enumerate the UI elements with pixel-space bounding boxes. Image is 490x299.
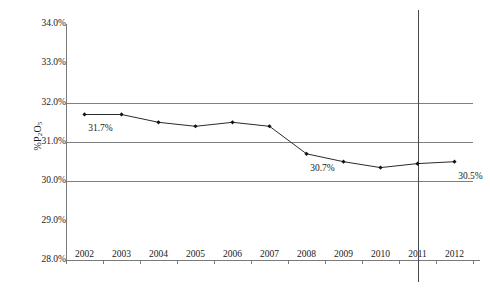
x-tickmark [66,260,67,264]
y-tick-label: 29.0% [22,216,66,226]
x-tick-label: 2012 [445,249,464,259]
x-tick-label: 2002 [75,249,94,259]
x-tickmark [325,260,326,264]
x-tick-label: 2008 [297,249,316,259]
y-tick-label: 33.0% [22,58,66,68]
data-label: 31.7% [88,123,113,133]
x-tickmark [436,260,437,264]
y-tick-label: 34.0% [22,19,66,29]
y-tick-label: 31.0% [22,137,66,147]
data-point-marker [193,124,197,128]
data-label: 30.5% [458,171,483,181]
x-tickmark [473,260,474,264]
x-tickmark [214,260,215,264]
x-tickmark [362,260,363,264]
data-point-marker [341,160,345,164]
y-tick-label: 30.0% [22,176,66,186]
chart-container: %P2O5 34.0%33.0%32.0%31.0%30.0%29.0%28.0… [0,0,490,299]
y-axis-tick-labels: 34.0%33.0%32.0%31.0%30.0%29.0%28.0% [22,0,66,299]
series-polyline [85,115,455,168]
x-tickmark [140,260,141,264]
x-tickmark [288,260,289,264]
x-tick-label: 2004 [149,249,168,259]
data-point-marker [119,112,123,116]
data-point-marker [378,165,382,169]
x-tick-label: 2009 [334,249,353,259]
data-point-marker [82,112,86,116]
data-point-marker [452,160,456,164]
data-point-marker [230,120,234,124]
x-tickmark [399,260,400,264]
y-tick-label: 32.0% [22,98,66,108]
x-tickmark [103,260,104,264]
plot-area [66,24,473,260]
x-tick-label: 2007 [260,249,279,259]
y-tick-label: 28.0% [22,255,66,265]
data-series-line [66,24,473,260]
data-label: 30.7% [310,163,335,173]
x-tick-label: 2005 [186,249,205,259]
data-point-marker [415,162,419,166]
data-point-marker [156,120,160,124]
x-tickmark [251,260,252,264]
x-tick-label: 2011 [408,249,427,259]
x-tick-label: 2006 [223,249,242,259]
x-tickmark [177,260,178,264]
x-tick-label: 2003 [112,249,131,259]
x-tick-label: 2010 [371,249,390,259]
